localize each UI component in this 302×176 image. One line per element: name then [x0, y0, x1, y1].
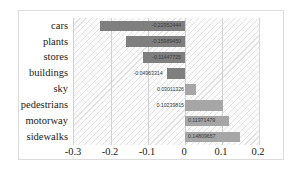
bar-motorway[interactable]: 0.11971479: [185, 116, 229, 127]
bar-value-label: 0.03011326: [154, 87, 185, 92]
x-axis: -0.3-0.2-0.100.10.2: [73, 147, 260, 161]
chart-frame: -0.22952444-0.15989450-0.11447725-0.0496…: [18, 10, 284, 160]
category-label-pedestrians: pedestrians: [21, 100, 68, 111]
bar-row: -0.11447725: [74, 50, 259, 66]
bar-sky[interactable]: 0.03011326: [185, 84, 196, 95]
category-label-sidewalks: sidewalks: [27, 132, 68, 143]
bar-value-label: -0.15989450: [152, 39, 185, 44]
x-tick-label: -0.1: [139, 147, 156, 158]
bar-value-label: 0.11971479: [185, 118, 215, 123]
bar-value-label: 0.14809657: [185, 134, 215, 139]
bar-row: -0.22952444: [74, 18, 259, 34]
bar-value-label: -0.11447725: [152, 55, 185, 60]
bar-row: 0.10239815: [74, 97, 259, 113]
category-label-stores: stores: [44, 52, 69, 63]
bar-sidewalks[interactable]: 0.14809657: [185, 132, 240, 143]
bar-value-label: 0.10239815: [154, 103, 185, 108]
x-tick-label: -0.2: [102, 147, 119, 158]
bar-row: 0.03011326: [74, 82, 259, 98]
bar-stores[interactable]: -0.11447725: [143, 52, 185, 63]
plot-area: -0.22952444-0.15989450-0.11447725-0.0496…: [73, 18, 260, 145]
bar-value-label: -0.04963314: [133, 71, 166, 76]
x-tick-label: -0.3: [65, 147, 82, 158]
bar-row: -0.04963314: [74, 66, 259, 82]
category-label-cars: cars: [51, 21, 68, 32]
x-tick-label: 0.1: [214, 147, 227, 158]
x-tick-label: 0: [181, 147, 186, 158]
bar-plants[interactable]: -0.15989450: [126, 36, 185, 47]
category-label-sky: sky: [53, 84, 68, 95]
bar-row: 0.11971479: [74, 113, 259, 129]
bar-value-label: -0.22952444: [152, 23, 185, 28]
category-label-buildings: buildings: [29, 68, 68, 79]
bar-cars[interactable]: -0.22952444: [100, 21, 185, 32]
bar-pedestrians[interactable]: 0.10239815: [185, 100, 223, 111]
bar-row: -0.15989450: [74, 34, 259, 50]
bar-row: 0.14809657: [74, 129, 259, 145]
category-label-plants: plants: [43, 37, 68, 48]
bar-buildings[interactable]: -0.04963314: [167, 68, 185, 79]
x-tick-label: 0.2: [251, 147, 264, 158]
category-label-motorway: motorway: [25, 116, 68, 127]
